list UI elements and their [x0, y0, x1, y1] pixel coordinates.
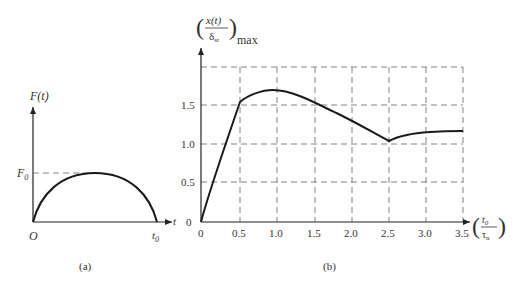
panel-a-origin-label: O	[29, 229, 38, 243]
panel-b-caption: (b)	[323, 260, 336, 273]
svg-text:x(t): x(t)	[205, 14, 222, 27]
panel-b: 0 0.5 1.0 1.5 0 0.5 1.0 1.5 2.0 2.5 3.0 …	[181, 14, 506, 273]
svg-text:): )	[229, 14, 237, 40]
panel-a-caption: (a)	[79, 260, 92, 273]
panel-b-x-axis-label: ( t0 τn )	[472, 213, 506, 242]
panel-b-x-tick: 1.5	[307, 227, 321, 239]
panel-a-y-axis-label: F(t)	[29, 89, 49, 103]
svg-text:): )	[498, 213, 506, 239]
panel-b-y-tick: 1.5	[181, 99, 195, 111]
panel-b-y-tick: 0.5	[181, 176, 195, 188]
panel-b-x-tick: 0	[198, 227, 204, 239]
panel-b-x-tick: 1.0	[269, 227, 283, 239]
svg-text:max: max	[237, 33, 258, 47]
panel-a: F(t) F0 O t0 t (a)	[16, 89, 177, 273]
panel-b-y-axis-label: ( x(t) δst ) max	[196, 14, 258, 47]
panel-b-y-tick: 0	[186, 216, 192, 228]
figure-canvas: F(t) F0 O t0 t (a) 0 0.5 1.0	[0, 0, 514, 286]
panel-b-x-tick: 3.5	[455, 227, 469, 239]
panel-a-t0-label: t0	[152, 229, 159, 244]
svg-text:(: (	[196, 14, 204, 40]
panel-b-grid	[201, 67, 463, 222]
svg-text:δst: δst	[209, 30, 219, 44]
panel-b-x-tick: 0.5	[232, 227, 246, 239]
svg-text:t0: t0	[482, 214, 489, 227]
panel-a-x-axis-label: t	[173, 215, 177, 227]
panel-b-x-tick: 3.0	[418, 227, 432, 239]
panel-b-x-tick: 2.0	[344, 227, 358, 239]
svg-text:τn: τn	[482, 229, 490, 242]
panel-a-f0-label: F0	[16, 166, 28, 182]
panel-a-half-sine-curve	[33, 173, 157, 222]
svg-text:(: (	[472, 213, 480, 239]
panel-b-y-tick: 1.0	[181, 138, 195, 150]
panel-b-x-tick: 2.5	[381, 227, 395, 239]
